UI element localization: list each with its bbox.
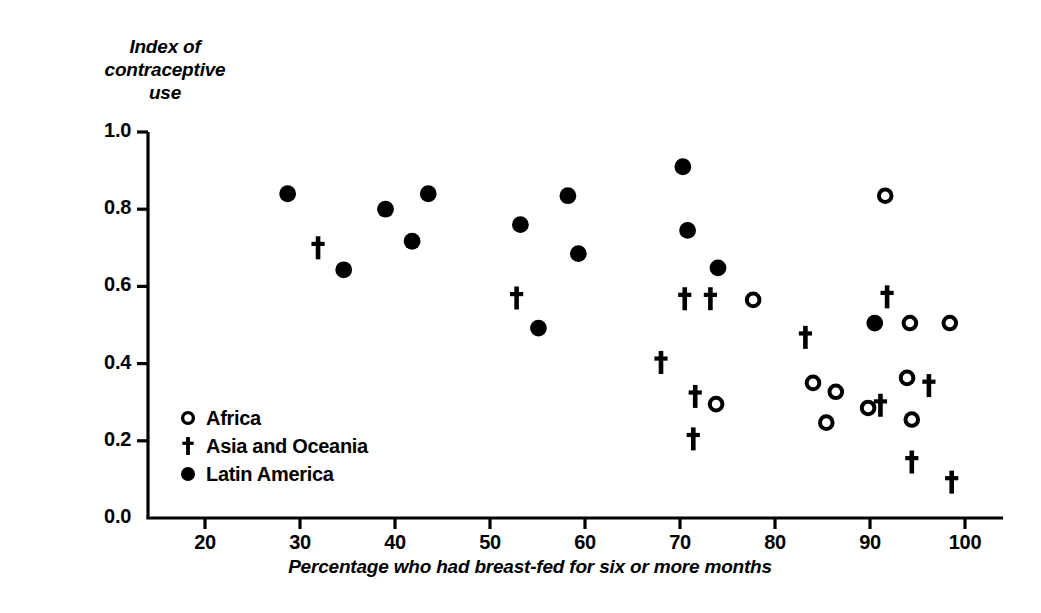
data-point — [687, 427, 700, 450]
data-point — [906, 413, 919, 426]
data-point — [710, 259, 727, 276]
data-point — [879, 189, 892, 202]
data-points-layer — [279, 158, 958, 493]
data-point — [404, 233, 421, 250]
x-axis-title: Percentage who had breast-fed for six or… — [150, 556, 910, 578]
data-point — [945, 471, 958, 494]
data-point — [905, 451, 918, 474]
data-point — [704, 287, 717, 310]
data-point — [747, 294, 760, 307]
y-axis-title-line-1: Index of — [60, 36, 270, 59]
x-tick-label: 100 — [935, 531, 995, 554]
x-tick-label: 80 — [745, 531, 805, 554]
data-point — [820, 416, 833, 429]
data-point — [678, 287, 691, 310]
data-point — [689, 385, 702, 408]
x-tick-label: 20 — [175, 531, 235, 554]
legend-item-latin-america: Latin America — [178, 460, 368, 488]
data-point — [570, 245, 587, 262]
legend-item-africa: Africa — [178, 404, 368, 432]
data-point — [654, 351, 667, 374]
data-point — [830, 385, 843, 398]
data-point — [862, 402, 875, 415]
y-axis-title-line-3: use — [60, 82, 270, 105]
y-tick-label: 0.4 — [71, 351, 131, 374]
data-point — [420, 185, 437, 202]
data-point — [944, 317, 957, 330]
series-asia-and-oceania — [311, 236, 958, 493]
data-point — [530, 320, 547, 337]
legend-item-asia-oceania: Asia and Oceania — [178, 432, 368, 460]
y-tick-label: 0.8 — [71, 196, 131, 219]
data-point — [512, 216, 529, 233]
data-point — [335, 261, 352, 278]
data-point — [679, 222, 696, 239]
x-tick-label: 60 — [555, 531, 615, 554]
series-africa — [710, 189, 956, 429]
data-point — [904, 317, 917, 330]
open-circle-icon — [178, 408, 204, 428]
y-tick-label: 0.6 — [71, 273, 131, 296]
x-tick-label: 70 — [650, 531, 710, 554]
legend: Africa Asia and Oceania Latin America — [178, 404, 368, 488]
scatter-plot-figure: Index of contraceptive use 0.00.20.40.60… — [0, 0, 1041, 613]
data-point — [377, 201, 394, 218]
data-point — [866, 315, 883, 332]
legend-label-latin-america: Latin America — [204, 463, 334, 486]
legend-label-asia-oceania: Asia and Oceania — [204, 435, 368, 458]
x-tick-label: 50 — [460, 531, 520, 554]
data-point — [881, 285, 894, 308]
data-point — [807, 377, 820, 390]
data-point — [674, 158, 691, 175]
x-tick-label: 90 — [840, 531, 900, 554]
y-axis-title-line-2: contraceptive — [60, 59, 270, 82]
data-point — [279, 185, 296, 202]
x-tick-label: 30 — [270, 531, 330, 554]
data-point — [901, 372, 914, 385]
y-tick-label: 1.0 — [71, 119, 131, 142]
dagger-icon — [178, 435, 204, 457]
data-point — [799, 326, 812, 349]
y-tick-label: 0.0 — [71, 505, 131, 528]
filled-circle-icon — [178, 464, 204, 484]
legend-label-africa: Africa — [204, 407, 261, 430]
series-latin-america — [279, 158, 883, 336]
data-point — [560, 187, 577, 204]
data-point — [922, 374, 935, 397]
y-axis-title: Index of contraceptive use — [60, 36, 270, 104]
data-point — [710, 398, 723, 411]
data-point — [311, 236, 324, 259]
x-tick-label: 40 — [365, 531, 425, 554]
data-point — [510, 286, 523, 309]
y-tick-label: 0.2 — [71, 428, 131, 451]
